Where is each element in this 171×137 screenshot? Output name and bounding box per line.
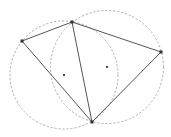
- circumcenter-abd: [63, 74, 65, 76]
- edge-bc: [72, 22, 161, 52]
- edge-bd: [72, 22, 92, 122]
- circumcenters: [63, 66, 108, 76]
- vertex-a: [21, 40, 24, 43]
- edge-cd: [92, 52, 161, 122]
- circumcircles: [10, 11, 164, 130]
- edge-ab: [22, 22, 72, 41]
- vertex-d: [91, 121, 94, 124]
- vertex-b: [71, 21, 74, 24]
- edge-da: [22, 41, 92, 122]
- triangle-edges: [22, 22, 161, 122]
- diagram-canvas: [0, 0, 171, 137]
- vertex-c: [160, 51, 163, 54]
- circumcenter-bcd: [106, 66, 108, 68]
